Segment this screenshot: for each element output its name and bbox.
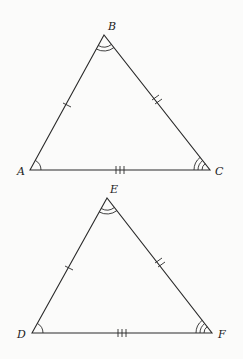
- triangle-def-outline: [32, 198, 212, 333]
- congruent-triangles-diagram: A B C D E F: [0, 0, 243, 359]
- angle-arc-b-2: [96, 48, 114, 51]
- vertex-label-b: B: [107, 20, 116, 33]
- angle-arc-c-1: [202, 164, 205, 170]
- angle-arc-f-1: [204, 327, 207, 333]
- angle-arc-e-1: [101, 208, 114, 211]
- angle-arc-e-2: [99, 211, 117, 214]
- angle-arc-d: [37, 323, 43, 333]
- vertex-label-c: C: [215, 165, 224, 178]
- triangle-def: D E F: [16, 183, 226, 341]
- triangle-abc-outline: [30, 35, 210, 170]
- vertex-label-f: F: [217, 328, 226, 341]
- angle-arc-a: [35, 160, 41, 170]
- angle-arc-c-3: [194, 157, 200, 170]
- angle-arc-b-1: [98, 45, 111, 48]
- angle-arc-f-3: [196, 320, 202, 333]
- vertex-label-d: D: [16, 328, 26, 341]
- vertex-label-e: E: [109, 183, 118, 196]
- vertex-label-a: A: [16, 165, 25, 178]
- triangle-abc: A B C: [16, 20, 224, 178]
